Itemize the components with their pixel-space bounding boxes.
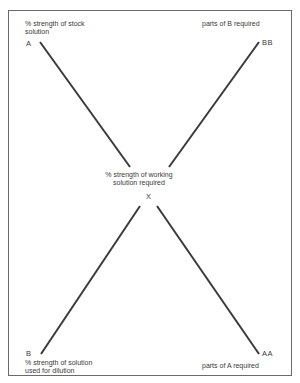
line-b-to-x bbox=[41, 206, 140, 354]
parts-b-label: parts of B required bbox=[202, 20, 260, 28]
stock-strength-label-line1: % strength of stock bbox=[25, 20, 85, 28]
parts-a-label: parts of A required bbox=[202, 362, 259, 370]
line-a-to-x bbox=[40, 42, 130, 167]
working-strength-label-line1: % strength of working bbox=[74, 171, 204, 179]
stock-strength-label-line2: solution bbox=[25, 28, 85, 36]
point-x: X bbox=[146, 193, 152, 201]
dilution-strength-label-line2: used for dilution bbox=[25, 367, 92, 375]
stock-strength-label: % strength of stock solution bbox=[25, 20, 85, 36]
point-b: B bbox=[26, 350, 32, 358]
line-bb-to-x bbox=[169, 42, 259, 167]
point-bb: BB bbox=[262, 39, 273, 47]
point-aa: AA bbox=[262, 350, 273, 358]
working-strength-label-line2: solution required bbox=[74, 179, 204, 187]
point-a: A bbox=[26, 40, 32, 48]
dilution-strength-label-line1: % strength of solution bbox=[25, 359, 92, 367]
line-aa-to-x bbox=[157, 206, 259, 354]
dilution-strength-label: % strength of solution used for dilution bbox=[25, 359, 92, 375]
